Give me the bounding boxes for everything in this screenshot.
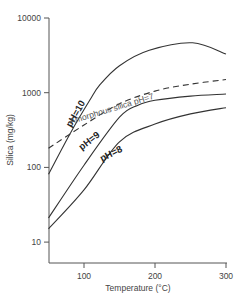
curve-labels: pH=10Amorphous silica pH=7pH=9pH=8 (63, 91, 155, 164)
y-tick-label: 1000 (22, 88, 41, 98)
x-axis-title: Temperature (°C) (105, 283, 170, 293)
curves (49, 43, 227, 229)
curve-ph-8 (49, 108, 227, 229)
y-axis-title: Silica (mg/kg) (5, 114, 15, 166)
x-tick-label: 200 (148, 271, 162, 281)
y-tick-label: 10 (32, 237, 42, 247)
x-tick-label: 100 (77, 271, 91, 281)
x-tick-label: 300 (219, 271, 233, 281)
y-tick-label: 10000 (17, 13, 41, 23)
curve-label: pH=8 (98, 143, 124, 163)
y-tick-label: 100 (27, 162, 41, 172)
silica-solubility-chart: 10100100010000 100200300 pH=10Amorphous … (0, 0, 244, 304)
y-ticks: 10100100010000 (17, 13, 49, 247)
curve-label: pH=9 (76, 129, 101, 152)
x-ticks: 100200300 (77, 263, 233, 281)
